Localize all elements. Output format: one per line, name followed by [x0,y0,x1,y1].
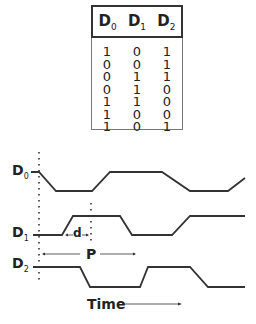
period-arrowhead-left [42,253,45,256]
delay-arrowhead-left [65,234,68,237]
signal-label-d2: D2 [12,255,29,274]
waveform-d1 [33,216,245,235]
period-label: P [86,246,96,262]
time-arrowhead [178,303,182,306]
waveform-d2 [33,267,245,287]
signal-label-d1: D1 [12,224,29,243]
waveform-d0 [31,172,245,191]
time-label: Time [87,296,125,312]
period-arrowhead-right [133,253,136,256]
timing-waveforms [0,0,256,324]
signal-label-d0: D0 [12,162,29,181]
delay-arrowhead-right [86,234,89,237]
delay-label: d [73,226,82,240]
